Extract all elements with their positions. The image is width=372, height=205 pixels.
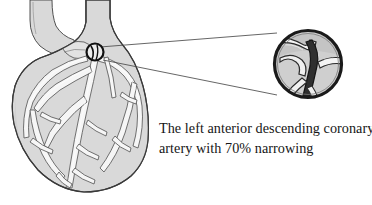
leader-line-upper	[100, 33, 277, 47]
magnified-artery-inset	[272, 31, 342, 99]
stenosis-site-marker	[87, 44, 104, 61]
figure-page: The left anterior descending coronary ar…	[0, 0, 372, 205]
heart-illustration-figure	[0, 0, 372, 205]
heart-anterior-view	[12, 0, 149, 192]
caption-line-1: The left anterior descending coronary	[159, 119, 364, 139]
caption-line-2: artery with 70% narrowing	[159, 139, 364, 159]
figure-caption: The left anterior descending coronary ar…	[159, 119, 364, 158]
